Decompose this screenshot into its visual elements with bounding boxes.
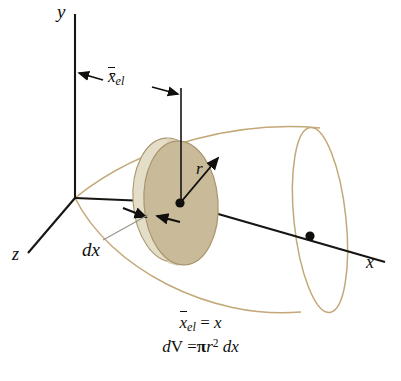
xel-label-subscript: el (116, 74, 125, 88)
eq2-exponent: 2 (213, 337, 219, 350)
eq2-V: V (171, 337, 183, 356)
eq2-dx-x: x (231, 337, 239, 356)
eq2-r: r (206, 337, 213, 356)
xel-dimension-arrow-left (79, 73, 103, 80)
xel-label-xbar: x̄ (108, 68, 116, 85)
y-axis-label: y (57, 2, 65, 21)
z-axis-line (28, 198, 75, 253)
equation-block: xel = x dV =πr2 dx (0, 312, 401, 359)
eq2-dx-d: d (223, 337, 232, 356)
eq2-d: d (162, 337, 171, 356)
eq1-xbar: x (179, 312, 187, 335)
eq2-equals: = (187, 337, 197, 356)
z-axis-label: z (12, 245, 19, 263)
figure-container: y z x r dx x̄el xel = x dV =πr2 dx (0, 0, 401, 381)
body-centroid-dot (305, 231, 314, 240)
equation-dv: dV =πr2 dx (0, 336, 401, 359)
eq2-pi: π (197, 337, 206, 356)
thickness-label-dx: dx (82, 240, 100, 259)
eq1-rhs: x (214, 313, 222, 332)
xel-dimension-arrow-right (152, 87, 178, 94)
eq1-equals: = (200, 313, 210, 332)
eq1-subscript: el (187, 320, 196, 334)
equation-xel: xel = x (0, 312, 401, 336)
xel-dimension-label: x̄el (108, 68, 124, 88)
x-axis-label: x (366, 253, 374, 271)
radius-label: r (196, 160, 203, 177)
